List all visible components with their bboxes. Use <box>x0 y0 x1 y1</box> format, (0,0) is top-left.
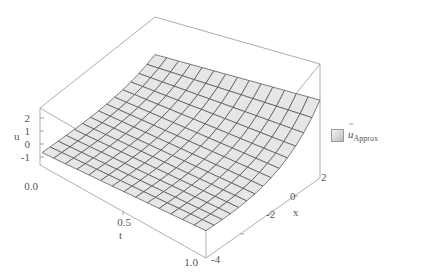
t-tick-1: 1.0 <box>184 256 198 268</box>
legend-accent: ~ <box>349 120 353 129</box>
u-tick-0: 0 <box>25 138 31 150</box>
u-tick-2: 2 <box>25 112 31 124</box>
t-tick-0: 0.0 <box>24 180 38 192</box>
legend-label: u~Approx <box>348 128 378 143</box>
x-axis-label: x <box>293 206 299 218</box>
u-axis-label: u <box>14 130 20 142</box>
x-tick-neg2: -2 <box>266 208 275 220</box>
x-tick-0: 0 <box>290 190 296 202</box>
legend-base: u <box>348 128 354 140</box>
legend-subscript: Approx <box>354 134 378 143</box>
u-tick-1: 1 <box>25 125 31 137</box>
u-tick-neg1: -1 <box>21 151 30 163</box>
legend-swatch <box>331 129 344 142</box>
t-axis-label: t <box>119 229 122 241</box>
surface-mesh <box>42 55 320 231</box>
legend: u~Approx <box>331 128 378 143</box>
x-tick-neg4: -4 <box>211 253 221 265</box>
x-tick-2: 2 <box>321 171 327 183</box>
t-tick-0.5: 0.5 <box>117 216 131 228</box>
